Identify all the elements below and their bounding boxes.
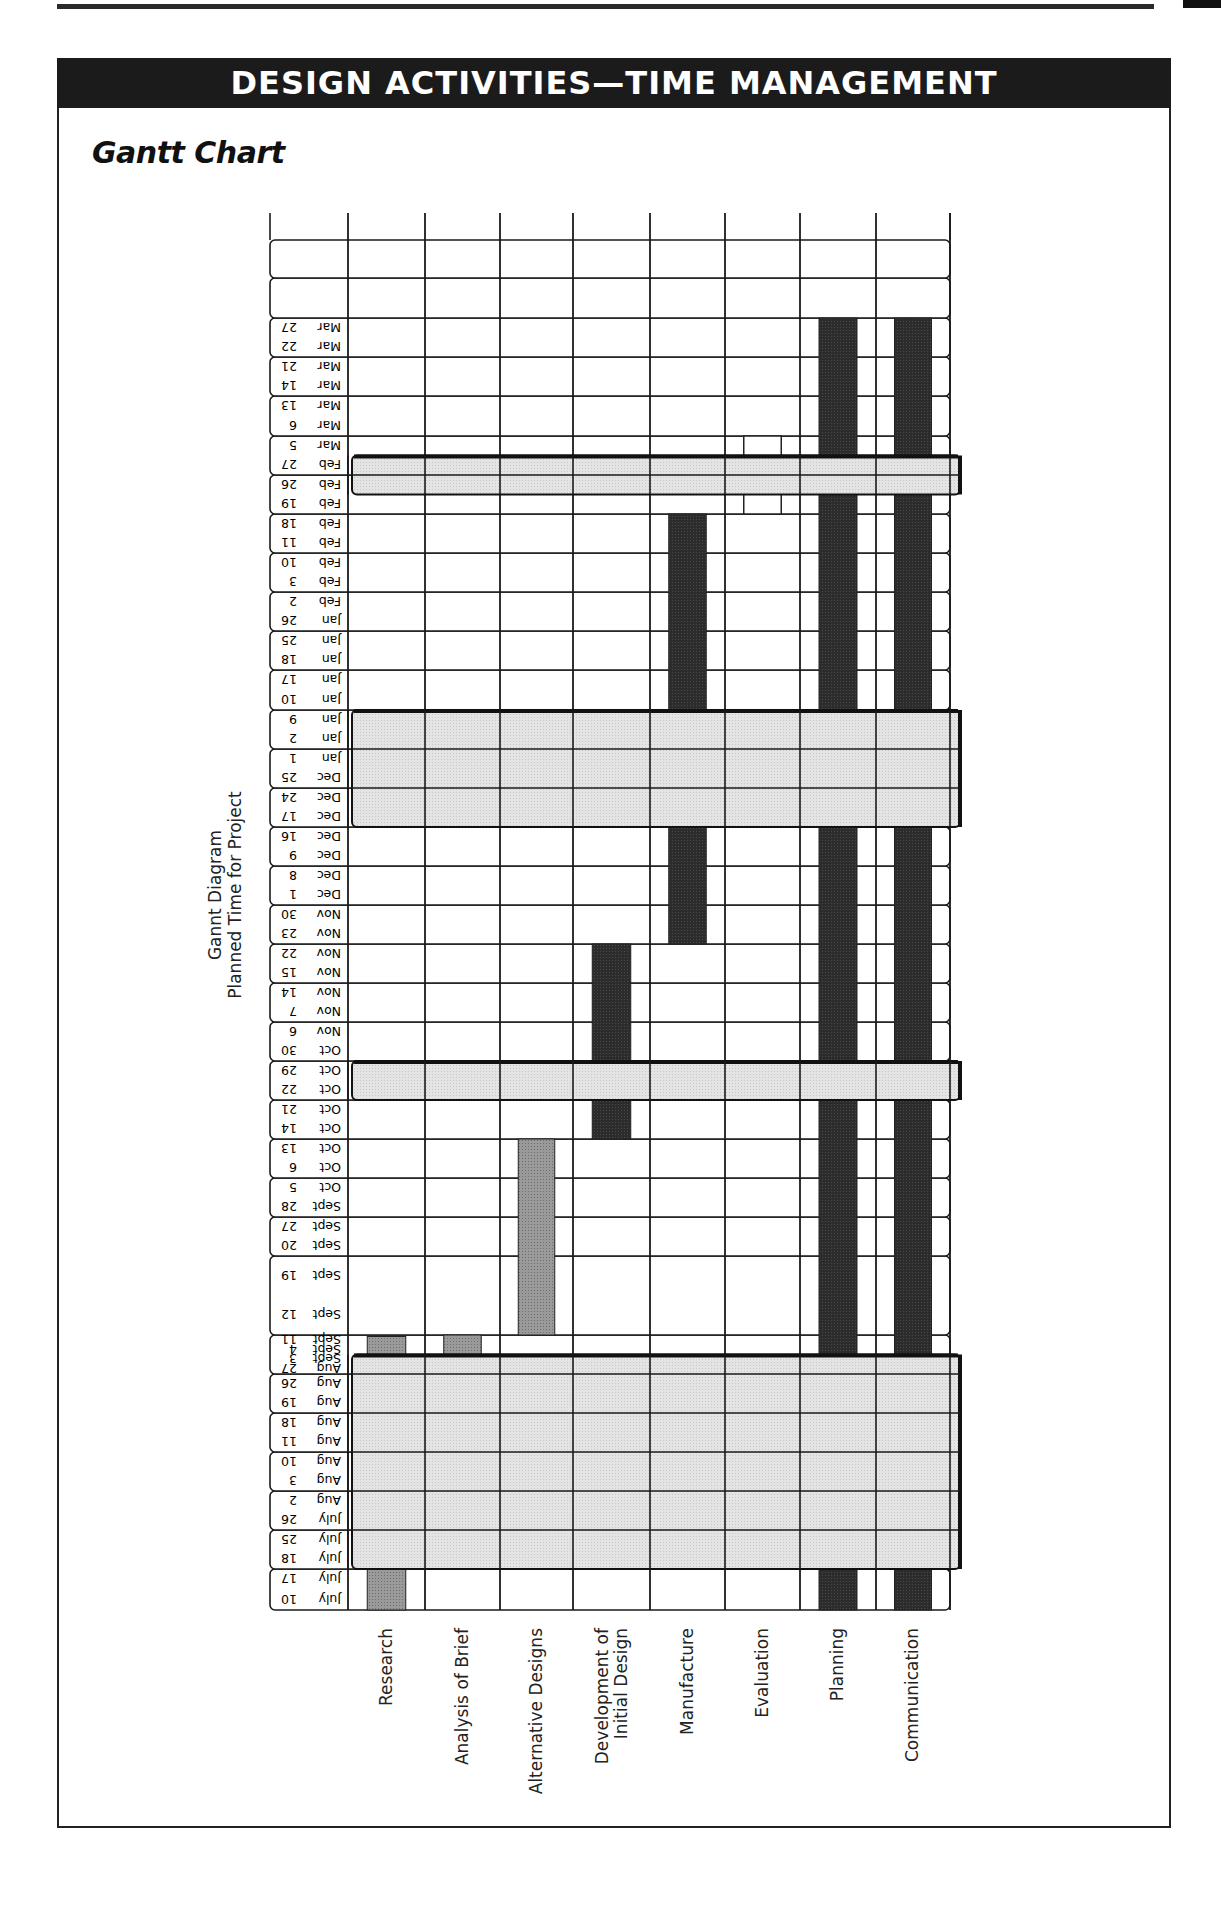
svg-text:6: 6 (289, 1160, 297, 1175)
svg-text:Sept: Sept (312, 1219, 341, 1234)
svg-text:11: 11 (281, 535, 297, 550)
svg-text:Feb: Feb (319, 574, 341, 589)
svg-text:Aug: Aug (317, 1454, 341, 1469)
row-box (270, 278, 950, 318)
svg-text:Nov: Nov (316, 965, 341, 980)
category-label: Alternative Designs (527, 1628, 546, 1848)
svg-text:11: 11 (281, 1434, 297, 1449)
svg-text:25: 25 (281, 1532, 297, 1547)
svg-text:Aug: Aug (317, 1473, 341, 1488)
svg-text:27: 27 (281, 320, 297, 335)
svg-text:12: 12 (281, 1307, 297, 1322)
svg-text:3: 3 (289, 1473, 297, 1488)
svg-text:Aug: Aug (317, 1415, 341, 1430)
svg-text:Mar: Mar (317, 438, 341, 453)
svg-text:Nov: Nov (316, 907, 341, 922)
svg-text:30: 30 (281, 1043, 297, 1058)
svg-text:Jan: Jan (322, 712, 342, 727)
svg-text:2: 2 (289, 731, 297, 746)
svg-text:Mar: Mar (317, 398, 341, 413)
svg-text:Dec: Dec (317, 868, 341, 883)
svg-text:14: 14 (281, 985, 297, 1000)
svg-text:Feb: Feb (319, 496, 341, 511)
category-label: Communication (903, 1628, 922, 1848)
break-band (352, 710, 960, 827)
svg-text:26: 26 (281, 1512, 297, 1527)
svg-text:Jan: Jan (322, 751, 342, 766)
svg-text:Aug: Aug (317, 1395, 341, 1410)
svg-text:10: 10 (281, 1592, 297, 1607)
svg-text:25: 25 (281, 633, 297, 648)
svg-text:Feb: Feb (319, 535, 341, 550)
task-bar-alternative-designs (518, 1139, 555, 1335)
category-label: Planning (828, 1628, 847, 1848)
svg-text:8: 8 (289, 868, 297, 883)
svg-text:Mar: Mar (317, 339, 341, 354)
svg-text:July: July (318, 1551, 342, 1566)
svg-text:10: 10 (281, 692, 297, 707)
svg-text:6: 6 (289, 1024, 297, 1039)
svg-text:10: 10 (281, 555, 297, 570)
svg-text:19: 19 (281, 1395, 297, 1410)
svg-text:14: 14 (281, 1121, 297, 1136)
category-label: Research (377, 1628, 396, 1848)
svg-text:30: 30 (281, 907, 297, 922)
svg-text:July: July (318, 1512, 342, 1527)
svg-text:Mar: Mar (317, 418, 341, 433)
svg-text:Jan: Jan (322, 633, 342, 648)
svg-text:18: 18 (281, 516, 297, 531)
svg-text:29: 29 (281, 1063, 297, 1078)
svg-text:27: 27 (281, 1219, 297, 1234)
svg-text:18: 18 (281, 652, 297, 667)
break-band (352, 1061, 960, 1100)
svg-text:5: 5 (289, 438, 297, 453)
svg-text:Nov: Nov (316, 946, 341, 961)
svg-text:16: 16 (281, 829, 297, 844)
svg-text:July: July (318, 1571, 342, 1586)
svg-text:21: 21 (281, 359, 297, 374)
svg-text:Jan: Jan (322, 672, 342, 687)
svg-text:5: 5 (289, 1180, 297, 1195)
svg-text:Dec: Dec (317, 790, 341, 805)
svg-text:Sept: Sept (312, 1332, 341, 1347)
svg-text:Feb: Feb (319, 555, 341, 570)
svg-text:Oct: Oct (319, 1102, 341, 1117)
task-bar-analysis-of-brief (444, 1335, 482, 1355)
svg-text:17: 17 (281, 1571, 297, 1586)
svg-text:14: 14 (281, 378, 297, 393)
svg-text:Dec: Dec (317, 829, 341, 844)
svg-text:13: 13 (281, 398, 297, 413)
svg-text:Dec: Dec (317, 770, 341, 785)
svg-text:19: 19 (281, 496, 297, 511)
svg-text:Jan: Jan (322, 731, 342, 746)
svg-text:Aug: Aug (317, 1376, 341, 1391)
svg-text:1: 1 (289, 887, 297, 902)
svg-text:Jan: Jan (322, 652, 342, 667)
svg-text:Nov: Nov (316, 926, 341, 941)
svg-text:22: 22 (281, 1082, 297, 1097)
svg-text:Feb: Feb (319, 594, 341, 609)
svg-text:Oct: Oct (319, 1063, 341, 1078)
category-label: Manufacture (678, 1628, 697, 1848)
svg-text:Sept: Sept (312, 1307, 341, 1322)
svg-text:7: 7 (289, 1004, 297, 1019)
svg-text:Oct: Oct (319, 1082, 341, 1097)
task-bar-development-of-initial-design (592, 944, 631, 1139)
svg-text:Mar: Mar (317, 359, 341, 374)
svg-text:11: 11 (281, 1332, 297, 1347)
svg-text:July: July (318, 1532, 342, 1547)
break-band (352, 1355, 960, 1570)
svg-text:26: 26 (281, 477, 297, 492)
svg-text:Aug: Aug (317, 1493, 341, 1508)
svg-text:9: 9 (289, 712, 297, 727)
svg-text:18: 18 (281, 1551, 297, 1566)
svg-text:Mar: Mar (317, 378, 341, 393)
svg-text:1: 1 (289, 751, 297, 766)
svg-text:10: 10 (281, 1454, 297, 1469)
svg-text:Dec: Dec (317, 848, 341, 863)
svg-text:25: 25 (281, 770, 297, 785)
svg-text:23: 23 (281, 926, 297, 941)
task-bar-research (367, 1337, 406, 1355)
svg-text:15: 15 (281, 965, 297, 980)
svg-text:21: 21 (281, 1102, 297, 1117)
